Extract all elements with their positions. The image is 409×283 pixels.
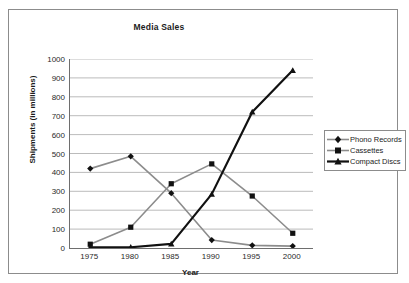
x-axis-tick-label: 1985	[150, 252, 190, 261]
data-point-square-icon	[290, 231, 295, 236]
y-axis-tick-label: 500	[35, 149, 65, 158]
y-axis-tick-label: 200	[35, 206, 65, 215]
data-point-diamond-icon	[87, 166, 93, 172]
chart-frame: Media Sales Shipments (in millions) 0100…	[8, 9, 398, 274]
x-axis-tick-label: 1995	[231, 252, 271, 261]
data-point-square-icon	[169, 181, 174, 186]
data-point-square-icon	[250, 193, 255, 198]
y-axis-tick-label: 600	[35, 130, 65, 139]
legend-label: Phono Records	[349, 135, 402, 144]
plot-area	[69, 59, 313, 249]
y-axis-tick-labels: 01002003004005006007008009001000	[31, 59, 65, 248]
y-axis-tick-label: 800	[35, 92, 65, 101]
data-point-square-icon	[128, 225, 133, 230]
data-point-triangle-icon	[290, 67, 296, 73]
data-point-diamond-icon	[290, 243, 296, 248]
chart-legend: Phono Records Cassettes Compact Discs	[324, 130, 406, 171]
legend-item[interactable]: Phono Records	[327, 134, 402, 145]
screenshot-root: Media Sales Shipments (in millions) 0100…	[0, 0, 409, 283]
legend-item[interactable]: Compact Discs	[327, 156, 402, 167]
x-axis-title: Year	[69, 268, 312, 277]
x-axis-tick-label: 2000	[272, 252, 312, 261]
y-axis-tick-label: 700	[35, 111, 65, 120]
x-axis-tick-label: 1980	[110, 252, 150, 261]
data-point-diamond-icon	[249, 242, 255, 248]
legend-item[interactable]: Cassettes	[327, 145, 402, 156]
series-line	[90, 156, 293, 246]
x-axis-tick-label: 1975	[69, 252, 109, 261]
y-axis-tick-label: 1000	[35, 55, 65, 64]
chart-title: Media Sales	[9, 22, 309, 32]
y-axis-tick-label: 100	[35, 225, 65, 234]
legend-label: Cassettes	[349, 146, 383, 155]
legend-swatch-square-icon	[327, 145, 349, 156]
x-axis-tick-label: 1990	[191, 252, 231, 261]
y-axis-tick-label: 0	[35, 244, 65, 253]
y-axis-tick-label: 400	[35, 168, 65, 177]
chart-plot-svg	[70, 59, 313, 248]
y-axis-tick-label: 900	[35, 73, 65, 82]
legend-label: Compact Discs	[349, 157, 400, 166]
series-line	[90, 164, 293, 244]
legend-swatch-triangle-icon	[327, 156, 349, 167]
y-axis-tick-label: 300	[35, 187, 65, 196]
x-axis-tick-labels: 197519801985199019952000	[69, 252, 312, 266]
legend-swatch-diamond-icon	[327, 134, 349, 145]
data-point-square-icon	[209, 161, 214, 166]
